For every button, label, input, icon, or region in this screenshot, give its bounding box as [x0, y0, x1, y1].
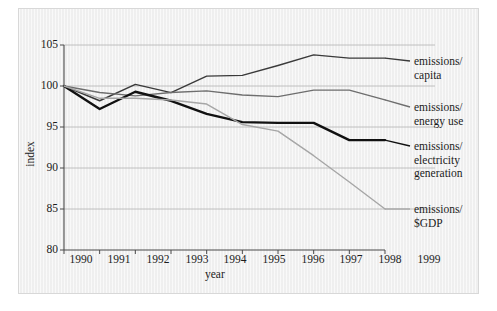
legend-leader-lines	[385, 58, 410, 209]
gridlines	[64, 45, 435, 250]
leader-line-0	[385, 58, 410, 61]
leader-line-2	[385, 140, 410, 146]
series-lines	[64, 55, 385, 209]
chart-figure: 105 100 95 90 85 80 index 1990 1991 1992…	[0, 0, 497, 311]
series-label-emissions-capita: emissions/ capita	[414, 55, 463, 82]
series-label-emissions-electricity-generation: emissions/ electricity generation	[414, 140, 463, 181]
series-label-emissions-gdp: emissions/ $GDP	[414, 203, 463, 230]
series-line-3	[64, 86, 385, 209]
series-label-emissions-energy-use: emissions/ energy use	[414, 101, 463, 128]
leader-line-1	[385, 100, 410, 107]
